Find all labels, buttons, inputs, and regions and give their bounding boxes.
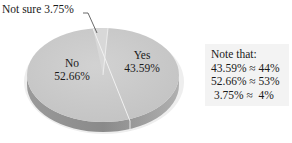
label-yes-name: Yes [118, 49, 166, 62]
note-row: 3.75% ≈ 4% [211, 89, 289, 103]
note-box: Note that: 43.59% ≈ 44% 52.66% ≈ 53% 3.7… [205, 44, 289, 106]
approx-symbol: ≈ [249, 62, 255, 74]
note-row: 52.66% ≈ 53% [211, 75, 289, 89]
label-no-name: No [50, 57, 94, 70]
note-title: Note that: [211, 48, 289, 62]
label-yes-value: 43.59% [118, 62, 166, 75]
label-no: No 52.66% [50, 57, 94, 83]
approx-symbol: ≈ [246, 89, 252, 101]
label-no-value: 52.66% [50, 70, 94, 83]
note-left: 52.66% [211, 75, 246, 87]
label-not-sure: Not sure 3.75% [2, 3, 74, 15]
note-right: 44% [259, 62, 280, 74]
label-yes: Yes 43.59% [118, 49, 166, 75]
note-row: 43.59% ≈ 44% [211, 62, 289, 76]
note-left: 43.59% [211, 62, 246, 74]
note-right: 53% [259, 75, 280, 87]
note-right: 4% [256, 89, 274, 101]
approx-symbol: ≈ [249, 75, 255, 87]
note-left: 3.75% [211, 89, 244, 101]
